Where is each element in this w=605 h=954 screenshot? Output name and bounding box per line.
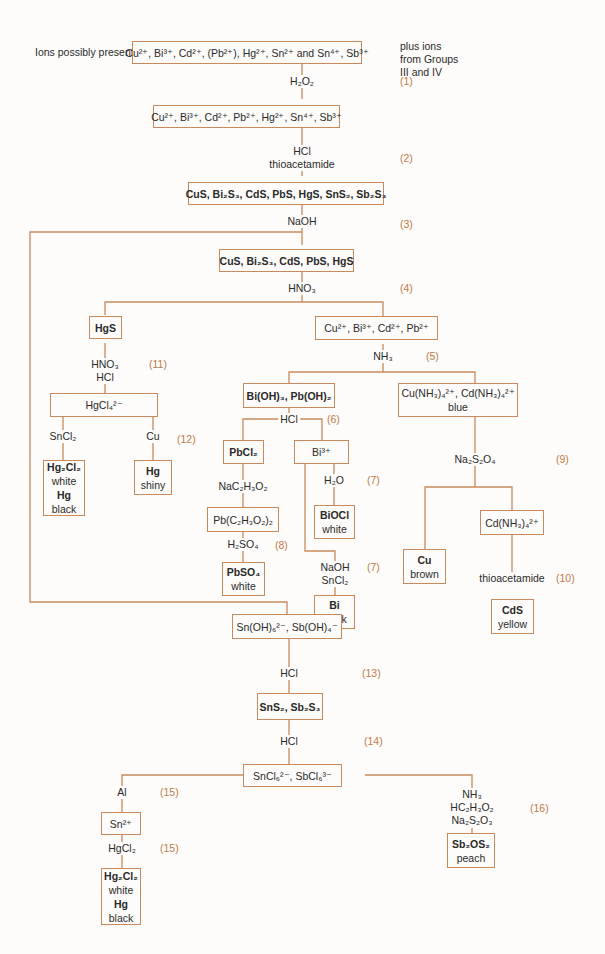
box-cd-ammine: Cd(NH₃)₄²⁺ bbox=[480, 510, 544, 535]
ions-possibly-present-label: Ions possibly present: bbox=[35, 46, 137, 59]
box-cu-brown: Cu brown bbox=[403, 549, 446, 584]
flowchart-connectors bbox=[0, 0, 605, 954]
box-hydroxo-complexes: Sn(OH)₆²⁻, Sb(OH)₄⁻ bbox=[232, 614, 342, 639]
box-hg2cl2-result: Hg₂Cl₂ white Hg black bbox=[43, 460, 85, 516]
reagent-hcl-6: HCl bbox=[278, 413, 300, 426]
reagent-sncl2: SnCl₂ bbox=[48, 430, 79, 443]
step-number-15a: (15) bbox=[160, 786, 179, 798]
step-number-7a: (7) bbox=[367, 474, 380, 486]
box-initial-ions: Cu²⁺, Bi³⁺, Cd²⁺, (Pb²⁺), Hg²⁺, Sn²⁺ and… bbox=[132, 41, 362, 64]
reagent-al: Al bbox=[115, 786, 128, 799]
reagent-naoh-sncl2: NaOH SnCl₂ bbox=[318, 561, 351, 587]
step-number-7b: (7) bbox=[367, 561, 380, 573]
box-pbso4: PbSO₄ white bbox=[222, 562, 265, 596]
box-group2a-sulfides: CuS, Bi₂S₃, CdS, PbS, HgS bbox=[219, 249, 354, 272]
reagent-thioacetamide-10: thioacetamide bbox=[477, 572, 546, 585]
box-chloro-complexes: SnCl₆²⁻, SbCl₆³⁻ bbox=[243, 764, 342, 787]
step-number-3: (3) bbox=[400, 218, 413, 230]
step-number-10: (10) bbox=[556, 572, 575, 584]
box-all-sulfides: CuS, Bi₂S₃, CdS, PbS, HgS, SnS₂, Sb₂S₃ bbox=[188, 182, 384, 205]
step-number-16: (16) bbox=[530, 802, 549, 814]
step-number-8: (8) bbox=[275, 539, 288, 551]
reagent-nh3: NH₃ bbox=[371, 350, 394, 363]
step-number-6: (6) bbox=[327, 413, 340, 425]
box-bi3: Bi³⁺ bbox=[294, 440, 349, 464]
box-sns2-sb2s3: SnS₂, Sb₂S₃ bbox=[257, 693, 323, 720]
box-cu-bi-cd-pb-ions: Cu²⁺, Bi³⁺, Cd²⁺, Pb²⁺ bbox=[315, 316, 438, 340]
step-number-1: (1) bbox=[400, 75, 413, 87]
box-pbcl2: PbCl₂ bbox=[223, 440, 264, 464]
reagent-h2o: H₂O bbox=[322, 474, 346, 487]
step-number-13: (13) bbox=[362, 667, 381, 679]
reagent-hno3-hcl: HNO₃ HCl bbox=[89, 358, 121, 384]
reagent-cu: Cu bbox=[144, 430, 161, 443]
reagent-h2so4: H₂SO₄ bbox=[225, 538, 260, 551]
box-cds-yellow: CdS yellow bbox=[491, 599, 534, 634]
reagent-hcl-thioacetamide: HCl thioacetamide bbox=[267, 145, 336, 171]
reagent-h2o2: H₂O₂ bbox=[288, 75, 316, 88]
reagent-hcl-14: HCl bbox=[278, 735, 300, 748]
reagent-hno3: HNO₃ bbox=[286, 282, 318, 295]
box-lead-acetate: Pb(C₂H₃O₂)₂ bbox=[207, 507, 279, 532]
step-number-14: (14) bbox=[364, 735, 383, 747]
box-sn2: Sn²⁺ bbox=[101, 812, 141, 835]
side-note: plus ions from Groups III and IV bbox=[400, 40, 458, 79]
step-number-2: (2) bbox=[400, 152, 413, 164]
box-hg2cl2-result-2: Hg₂Cl₂ white Hg black bbox=[101, 868, 141, 925]
step-number-5: (5) bbox=[426, 350, 439, 362]
box-oxidized-ions: Cu²⁺, Bi³⁺, Cd²⁺, Pb²⁺, Hg²⁺, Sn⁴⁺, Sb³⁺ bbox=[153, 105, 340, 128]
box-biocl: BiOCl white bbox=[314, 505, 355, 539]
step-number-11: (11) bbox=[149, 358, 167, 370]
box-hg-shiny: Hg shiny bbox=[134, 460, 172, 495]
box-hgcl4: HgCl₄²⁻ bbox=[50, 393, 158, 417]
reagent-hgcl2: HgCl₂ bbox=[106, 842, 137, 855]
reagent-sodium-acetate: NaC₂H₃O₂ bbox=[216, 480, 269, 493]
reagent-hcl-13: HCl bbox=[278, 667, 300, 680]
reagent-naoh: NaOH bbox=[285, 215, 318, 228]
step-number-12: (12) bbox=[177, 433, 196, 445]
reagent-na2s2o4: Na₂S₂O₄ bbox=[452, 453, 497, 466]
step-number-9: (9) bbox=[556, 453, 569, 465]
box-hgs: HgS bbox=[89, 316, 122, 339]
reagent-nh3-acetic-thiosulfate: NH₃ HC₂H₃O₂ Na₂S₂O₃ bbox=[448, 788, 495, 827]
step-number-4: (4) bbox=[400, 282, 413, 294]
box-hydroxides: Bi(OH)₃, Pb(OH)₂ bbox=[243, 383, 335, 408]
box-sb2os2: Sb₂OS₂ peach bbox=[447, 833, 495, 868]
step-number-15b: (15) bbox=[160, 842, 179, 854]
box-ammine-complexes: Cu(NH₃)₄²⁺, Cd(NH₃)₄²⁺ blue bbox=[398, 383, 518, 417]
